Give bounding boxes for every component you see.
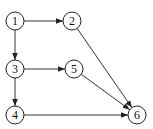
edge-5-to-6 <box>81 74 129 109</box>
node-1: 1 <box>6 12 24 30</box>
node-label: 5 <box>71 62 77 76</box>
edge-2-to-6 <box>77 28 132 107</box>
directed-graph: 1 2 3 5 4 6 <box>0 0 153 129</box>
node-6: 6 <box>128 106 146 124</box>
node-4: 4 <box>6 106 24 124</box>
node-3: 3 <box>6 60 24 78</box>
node-5: 5 <box>65 60 83 78</box>
node-label: 3 <box>12 62 18 76</box>
node-2: 2 <box>63 12 81 30</box>
node-label: 1 <box>12 14 18 28</box>
node-label: 6 <box>134 108 140 122</box>
node-label: 2 <box>69 14 75 28</box>
nodes: 1 2 3 5 4 6 <box>6 12 146 124</box>
node-label: 4 <box>12 108 18 122</box>
